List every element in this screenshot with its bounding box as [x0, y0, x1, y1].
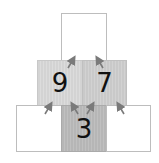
arrow-icon — [87, 104, 93, 114]
arrow-icon — [68, 58, 74, 68]
arrow-icon — [45, 104, 51, 114]
arrows-layer — [0, 0, 159, 163]
arrow-icon — [72, 104, 78, 114]
arrow-icon — [118, 104, 124, 114]
arrow-icon — [97, 58, 103, 68]
